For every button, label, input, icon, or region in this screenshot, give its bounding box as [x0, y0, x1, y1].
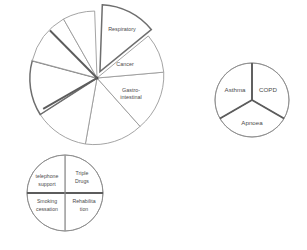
conditions-pie: Respiratory Cancer Gastro- intestinal [30, 5, 164, 145]
pie-label-gastro-line1: Gastro- [122, 87, 140, 93]
pie-label-triple-line1: Triple [76, 170, 89, 176]
pie-label-gastro-line2: intestinal [120, 94, 141, 100]
pie-label-telephone-line1: telephone [36, 173, 59, 179]
interventions-pie: telephone support Triple Drugs Smoking c… [27, 155, 103, 231]
pie-label-rehab-line1: Rehabilita [72, 198, 95, 204]
pie-label-rehab-line2: tion [80, 206, 88, 212]
pie-label-smoking-line1: Smoking [37, 198, 57, 204]
pie-label-telephone-line2: support [38, 181, 56, 187]
pie-label-triple-line2: Drugs [75, 178, 89, 184]
pie-label-apnoea: Apnoea [241, 119, 263, 126]
pie-label-asthma: Asthma [225, 86, 247, 93]
respiratory-breakdown-pie: Asthma COPD Apnoea [215, 63, 289, 137]
pie-label-respiratory: Respiratory [108, 26, 136, 32]
pie-label-cancer: Cancer [116, 61, 134, 67]
pie-label-copd: COPD [259, 86, 277, 93]
pie-label-smoking-line2: cessation [36, 206, 58, 212]
pie-charts-figure: Respiratory Cancer Gastro- intestinal As… [0, 0, 307, 250]
figure-container: Respiratory Cancer Gastro- intestinal As… [0, 0, 307, 250]
